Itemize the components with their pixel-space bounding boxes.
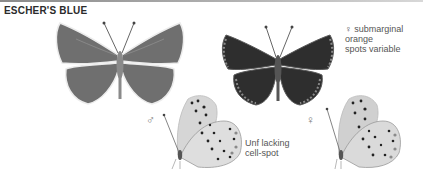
male-note-line2: cell-spot [245, 148, 290, 158]
male-underside-note: Unf lacking cell-spot [245, 138, 290, 158]
male-symbol: ♂ [146, 113, 155, 127]
female-underside-illustration [305, 95, 415, 169]
female-note-line1: ♀ submarginal orange [345, 24, 423, 44]
female-note-line2: spots variable [345, 44, 423, 54]
male-note-line1: Unf lacking [245, 138, 290, 148]
female-symbol: ♀ [306, 113, 315, 127]
header-rule [0, 0, 423, 2]
female-upperside-note: ♀ submarginal orange spots variable [345, 24, 423, 54]
male-underside-illustration [140, 95, 250, 169]
